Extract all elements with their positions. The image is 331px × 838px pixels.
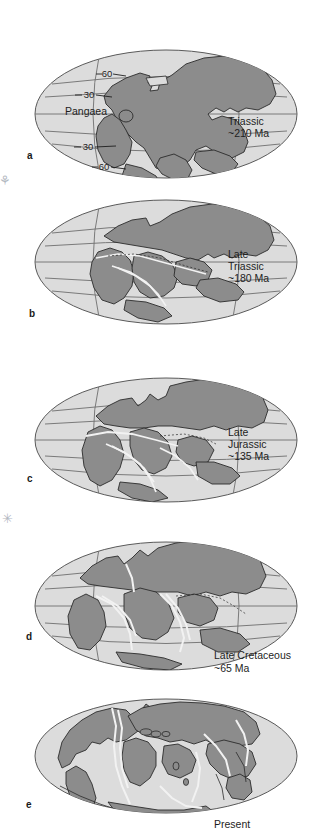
latitude-label-60s: 60 [99, 161, 110, 172]
panel-letter-d: d [26, 631, 32, 642]
panel-e-map: Present [0, 694, 331, 838]
panel-d-caption: Late Cretaceous ~65 Ma [214, 649, 291, 674]
panel-d-caption-line2: ~65 Ma [214, 662, 249, 674]
pangaea-label: Pangaea [65, 105, 107, 117]
panel-d-caption-line1: Late Cretaceous [214, 649, 291, 661]
panel-e: Present e [0, 694, 331, 838]
panel-c-map: Late Jurassic ~135 Ma [0, 370, 331, 510]
panel-d-map: Late Cretaceous ~65 Ma [0, 534, 331, 694]
panel-b-caption-line1: Late [228, 248, 249, 260]
latitude-label-60n: 60 [102, 68, 113, 79]
panel-a-map: 60 30 30 60 Pangaea Triassic ~210 Ma [0, 42, 331, 192]
panel-c-caption-line3: ~135 Ma [228, 450, 269, 462]
panel-d: Late Cretaceous ~65 Ma d [0, 534, 331, 694]
panel-b: Late Triassic ~180 Ma b [0, 196, 331, 336]
panel-letter-e: e [26, 799, 32, 810]
panel-b-caption-line3: ~180 Ma [228, 272, 269, 284]
panel-e-caption: Present [214, 818, 250, 830]
panel-b-map: Late Triassic ~180 Ma [0, 196, 331, 336]
panel-c-caption-line1: Late [228, 426, 249, 438]
continental-drift-figure: ⚘ ✳ [0, 0, 331, 838]
panel-e-caption-line1: Present [214, 818, 250, 830]
panel-a-caption-line1: Triassic [228, 115, 264, 127]
panel-a-caption-line2: ~210 Ma [228, 127, 269, 139]
scan-artifact-mid-icon: ✳ [2, 512, 13, 525]
panel-a: 60 30 30 60 Pangaea Triassic ~210 Ma a [0, 42, 331, 192]
latitude-label-30n: 30 [84, 89, 95, 100]
panel-c-caption-line2: Jurassic [228, 438, 267, 450]
latitude-label-30s: 30 [83, 141, 94, 152]
panel-c: Late Jurassic ~135 Ma c [0, 370, 331, 510]
panel-letter-a: a [27, 150, 33, 161]
panel-a-caption: Triassic ~210 Ma [228, 115, 269, 139]
panel-b-caption-line2: Triassic [228, 260, 264, 272]
panel-letter-c: c [27, 473, 33, 484]
panel-letter-b: b [29, 308, 35, 319]
